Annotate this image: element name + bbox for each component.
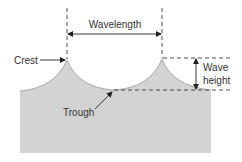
wave-height-label-line2: height [203, 75, 230, 86]
water-body [20, 59, 211, 153]
wave-height-label-line1: Wave [203, 62, 229, 73]
wave-diagram: Wavelength Crest Wave height Trough [0, 0, 242, 162]
wavelength-label: Wavelength [89, 19, 141, 30]
crest-label: Crest [14, 55, 38, 66]
trough-label: Trough [63, 107, 94, 118]
